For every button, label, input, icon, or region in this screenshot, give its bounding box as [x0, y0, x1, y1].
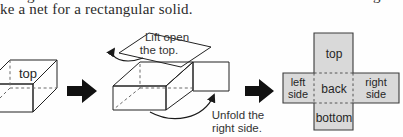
textbook-figure: ke a net for a rectangular solid. g g to…: [0, 0, 403, 137]
net-label-left-side-line2: side: [288, 88, 308, 100]
unfold-annotation-line2: right side.: [212, 122, 262, 134]
open-box-figure: Lift open the top. Unfold the right side…: [113, 31, 264, 134]
net-label-top: top: [326, 47, 343, 61]
diagram-canvas: top Lift open the top. Unfold the right …: [0, 0, 403, 137]
step-arrow-icon: [245, 79, 274, 103]
net-label-right-side-line1: right: [365, 76, 386, 88]
net-label-bottom: bottom: [316, 111, 353, 125]
unfolded-right-side: [193, 62, 229, 91]
lift-annotation-line2: the top.: [140, 44, 178, 56]
net-label-back: back: [321, 82, 347, 96]
box-top-label: top: [19, 66, 37, 81]
open-box-right-face: [166, 62, 193, 110]
unfold-annotation-line1: Unfold the: [212, 109, 264, 121]
net-label-left-side-line1: left: [291, 76, 306, 88]
net-label-right-side-line2: side: [366, 88, 386, 100]
open-box-interior: [113, 62, 193, 86]
lift-annotation-line1: Lift open: [145, 31, 189, 43]
step-arrow-icon: [67, 79, 97, 103]
open-box-front-face: [113, 86, 166, 110]
net-figure: top back bottom left side right side: [283, 33, 399, 130]
solid-box-figure: top: [0, 60, 57, 112]
